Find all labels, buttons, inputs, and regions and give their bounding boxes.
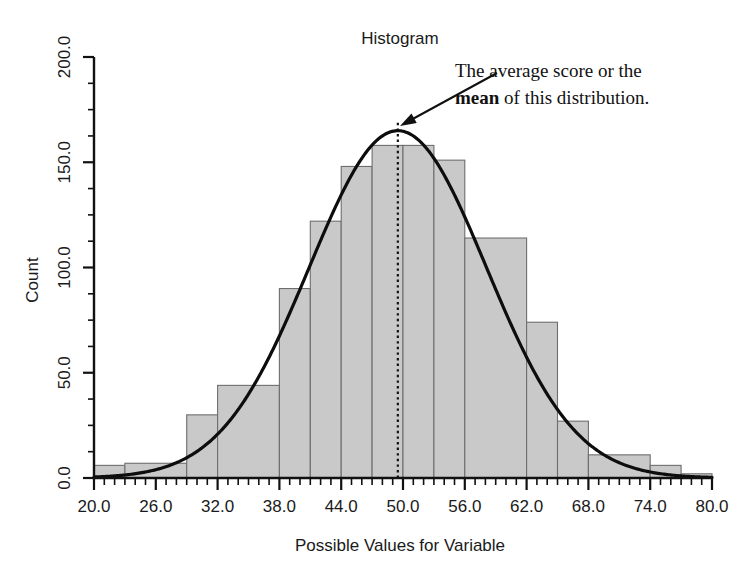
x-tick-label: 68.0 (572, 497, 605, 516)
x-tick-label: 38.0 (263, 497, 296, 516)
annotation-line-1: The average score or the (455, 60, 642, 81)
histogram-figure: Histogram Count Possible Values for Vari… (0, 0, 754, 573)
histogram-bar (310, 221, 341, 478)
y-tick-label: 150.0 (55, 141, 74, 184)
x-tick-label: 32.0 (201, 497, 234, 516)
chart-title: Histogram (361, 29, 438, 48)
x-tick-label: 44.0 (325, 497, 358, 516)
histogram-bar (218, 385, 280, 478)
x-tick-label: 26.0 (139, 497, 172, 516)
histogram-bar (341, 166, 372, 478)
y-axis-title: Count (23, 257, 42, 303)
y-tick-label: 100.0 (55, 246, 74, 289)
histogram-bar (403, 145, 434, 478)
x-axis-title: Possible Values for Variable (295, 536, 505, 555)
x-tick-label: 80.0 (695, 497, 728, 516)
y-tick-label: 0.0 (55, 466, 74, 490)
x-tick-label: 56.0 (448, 497, 481, 516)
annotation-line-2-rest: of this distribution. (499, 87, 649, 108)
x-tick-label: 50.0 (386, 497, 419, 516)
x-tick-label: 20.0 (77, 497, 110, 516)
histogram-svg: Histogram Count Possible Values for Vari… (0, 0, 754, 573)
histogram-bar (372, 145, 403, 478)
histogram-bar (279, 289, 310, 478)
y-tick-label: 50.0 (55, 356, 74, 389)
histogram-bar (465, 238, 527, 478)
annotation-mean-word: mean (455, 87, 500, 108)
x-tick-label: 74.0 (634, 497, 667, 516)
histogram-bar (588, 455, 650, 478)
x-tick-label: 62.0 (510, 497, 543, 516)
y-tick-label: 200.0 (55, 36, 74, 79)
annotation-line-2: mean of this distribution. (455, 87, 649, 108)
